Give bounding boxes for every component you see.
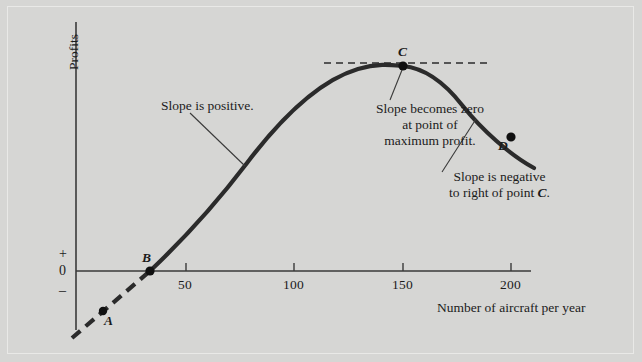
y-axis-minus-label: –	[59, 283, 66, 300]
annotation-slope-positive: Slope is positive.	[161, 98, 254, 114]
annotation-slope-zero: Slope becomes zero at point of maximum p…	[340, 101, 520, 149]
x-tick-label-50: 50	[178, 277, 192, 293]
x-axis-title: Number of aircraft per year	[437, 300, 585, 316]
leader-line-slope-zero	[390, 70, 402, 100]
y-axis-title: Profits	[66, 22, 82, 82]
point-label-c: C	[398, 44, 407, 60]
annotation-slope-negative-line-1: Slope is negative	[407, 169, 592, 185]
y-axis-plus-label: +	[59, 246, 67, 263]
x-tick-label-150: 150	[392, 277, 413, 293]
annotation-slope-negative-line-2-text: to right of point	[449, 185, 538, 200]
annotation-slope-negative-line-2: to right of point C.	[407, 185, 592, 201]
annotation-slope-zero-line-2: at point of	[340, 117, 520, 133]
point-label-a: A	[104, 313, 113, 329]
point-label-b: B	[142, 250, 151, 266]
annotation-slope-positive-line-1: Slope is positive.	[161, 98, 254, 114]
data-point-c	[398, 61, 407, 70]
data-point-b	[145, 266, 154, 275]
x-tick-label-100: 100	[283, 277, 304, 293]
profit-curve-figure: Profits + 0 – 50 100 150 200 Number of a…	[0, 0, 642, 362]
annotation-slope-zero-line-3: maximum profit.	[340, 133, 520, 149]
profit-curve	[150, 65, 534, 271]
annotation-slope-negative: Slope is negative to right of point C.	[407, 169, 592, 201]
x-tick-label-200: 200	[500, 277, 521, 293]
annotation-slope-zero-line-1: Slope becomes zero	[340, 101, 520, 117]
y-axis-zero-label: 0	[59, 263, 66, 280]
annotation-slope-negative-point-ref: C	[538, 185, 547, 200]
leader-line-slope-positive	[190, 113, 245, 166]
